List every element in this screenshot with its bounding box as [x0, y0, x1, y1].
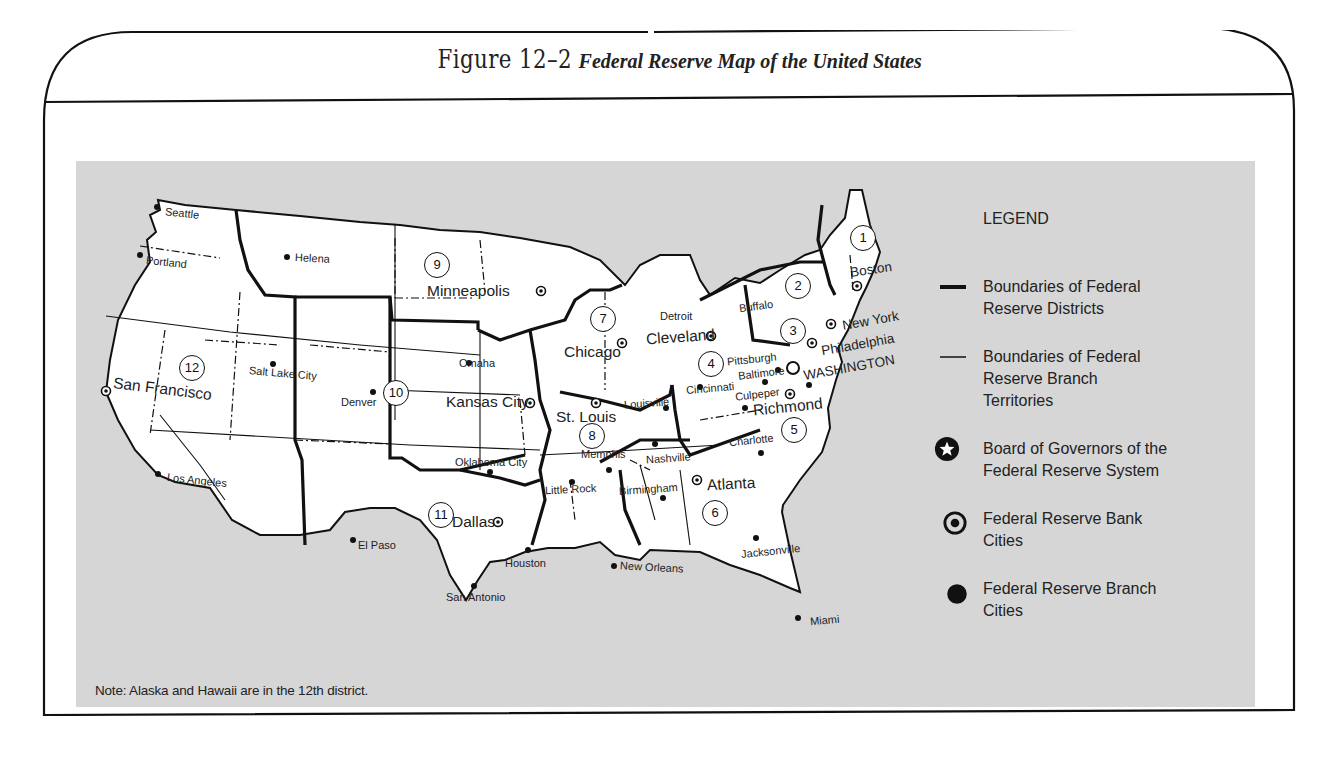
label-houston: Houston	[505, 557, 546, 569]
label-atlanta: Atlanta	[707, 474, 756, 495]
us-map	[76, 161, 1255, 707]
label-detroit: Detroit	[660, 310, 692, 322]
legend-label: Boundaries of Federal Reserve Branch Ter…	[983, 346, 1140, 412]
label-el-paso: El Paso	[358, 539, 396, 551]
district-6-marker: 6	[702, 500, 728, 526]
legend-heading: LEGEND	[983, 210, 1049, 228]
district-3-marker: 3	[780, 318, 806, 344]
district-12-marker: 12	[179, 355, 205, 381]
district-2-marker: 2	[785, 273, 811, 299]
label-san-antonio: San Antonio	[446, 591, 505, 603]
district-10-marker: 10	[383, 380, 409, 406]
label-dallas: Dallas	[452, 513, 495, 531]
district-9-marker: 9	[424, 252, 450, 278]
map-note: Note: Alaska and Hawaii are in the 12th …	[95, 683, 368, 698]
legend-label: Board of Governors of the Federal Reserv…	[983, 438, 1167, 482]
label-kansas-city: Kansas City	[446, 393, 529, 411]
label-chicago: Chicago	[564, 343, 621, 361]
label-omaha: Omaha	[459, 357, 495, 369]
district-11-marker: 11	[428, 502, 454, 528]
thick-line-icon	[940, 282, 966, 308]
figure-title: Figure 12–2 Federal Reserve Map of the U…	[0, 44, 1330, 74]
figure-caption: Federal Reserve Map of the United States	[579, 50, 922, 72]
district-7-marker: 7	[590, 306, 616, 332]
legend-label: Federal Reserve Bank Cities	[983, 508, 1142, 552]
filled-dot-icon	[944, 581, 970, 607]
label-miami: Miami	[810, 613, 840, 628]
district-5-marker: 5	[781, 417, 807, 443]
label-minneapolis: Minneapolis	[427, 282, 510, 300]
label-helena: Helena	[295, 251, 330, 265]
label-denver: Denver	[341, 396, 376, 408]
thin-line-icon	[940, 352, 966, 378]
star-in-circle-icon	[934, 436, 960, 462]
legend-label: Boundaries of Federal Reserve Districts	[983, 276, 1140, 320]
dot-in-circle-icon	[942, 510, 968, 536]
district-1-marker: 1	[850, 225, 876, 251]
label-oklahoma-city: Oklahoma City	[455, 456, 527, 468]
washington-star-marker	[787, 362, 799, 374]
figure-number: Figure 12–2	[438, 44, 572, 74]
district-4-marker: 4	[698, 351, 724, 377]
legend-label: Federal Reserve Branch Cities	[983, 578, 1156, 622]
label-st-louis: St. Louis	[556, 408, 616, 426]
district-8-marker: 8	[579, 423, 605, 449]
label-memphis: Memphis	[581, 448, 626, 460]
